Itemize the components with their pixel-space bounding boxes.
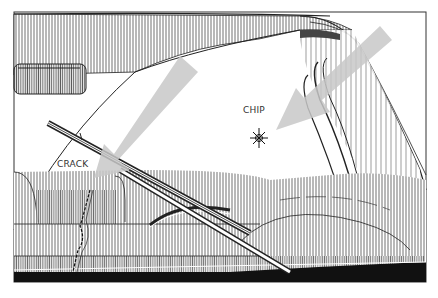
windshield-diagram: CHIP CRACK — [0, 0, 438, 298]
windshield-illustration — [0, 0, 438, 298]
crack-label: CRACK — [57, 159, 88, 169]
chip-label: CHIP — [243, 105, 265, 115]
